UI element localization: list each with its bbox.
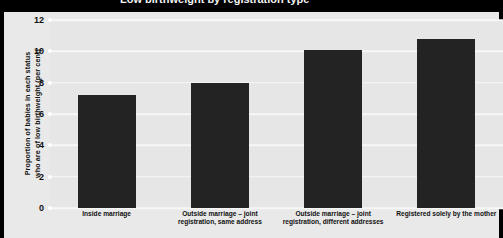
source-prefix: Source: (38, 237, 65, 238)
y-axis-tick-label: 4 (22, 140, 44, 150)
source-text: Childhood, infant and perinatal mortalit… (65, 237, 297, 238)
clipped-title-strip: Low birthweight by registration type (0, 0, 503, 12)
bar (304, 50, 362, 208)
x-axis-category-label: Outside marriage – joint registration, d… (277, 210, 390, 226)
bar (78, 95, 136, 208)
x-axis-category-label: Registered solely by the mother (390, 210, 503, 218)
bar (191, 83, 249, 208)
source-note: Source: Childhood, infant and perinatal … (38, 237, 297, 238)
bars-group (50, 20, 503, 208)
y-axis-tick-label: 12 (22, 15, 44, 25)
y-axis-tick-label: 0 (22, 203, 44, 213)
clipped-title-text: Low birthweight by registration type (120, 0, 309, 5)
x-axis-category-labels: Inside marriageOutside marriage – joint … (50, 210, 503, 236)
y-axis-tick-label: 10 (22, 46, 44, 56)
x-axis-category-label: Outside marriage – joint registration, s… (163, 210, 276, 226)
chart-page: Low birthweight by registration type Pro… (0, 0, 503, 238)
y-axis-tick-label: 2 (22, 172, 44, 182)
chart-panel: Proportion of babies in each status who … (4, 12, 499, 238)
bar (417, 39, 475, 208)
x-axis-category-label: Inside marriage (50, 210, 163, 218)
y-axis-tick-label: 8 (22, 78, 44, 88)
y-axis-tick-label: 6 (22, 109, 44, 119)
